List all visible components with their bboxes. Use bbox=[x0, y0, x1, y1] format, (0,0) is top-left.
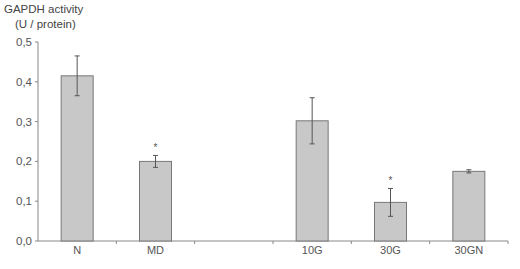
bar-30gn bbox=[453, 171, 485, 241]
y-tick-label: 0,3 bbox=[16, 116, 32, 128]
significance-asterisk: * bbox=[389, 175, 393, 186]
significance-asterisk: * bbox=[154, 142, 158, 153]
y-tick-label: 0,4 bbox=[16, 76, 33, 88]
x-tick-label: MD bbox=[147, 244, 164, 256]
x-tick-label: 30GN bbox=[454, 244, 483, 256]
bar-chart: 0,00,10,20,30,40,5NMD*10G30G*30GN bbox=[0, 0, 520, 269]
y-tick-label: 0,5 bbox=[16, 36, 32, 48]
x-tick-label: 30G bbox=[380, 244, 401, 256]
bar-md bbox=[140, 161, 172, 241]
x-tick-label: N bbox=[73, 244, 81, 256]
bar-n bbox=[61, 76, 93, 241]
x-tick-label: 10G bbox=[302, 244, 323, 256]
y-tick-label: 0,1 bbox=[16, 195, 32, 207]
y-tick-label: 0,2 bbox=[16, 155, 32, 167]
y-tick-label: 0,0 bbox=[16, 235, 32, 247]
